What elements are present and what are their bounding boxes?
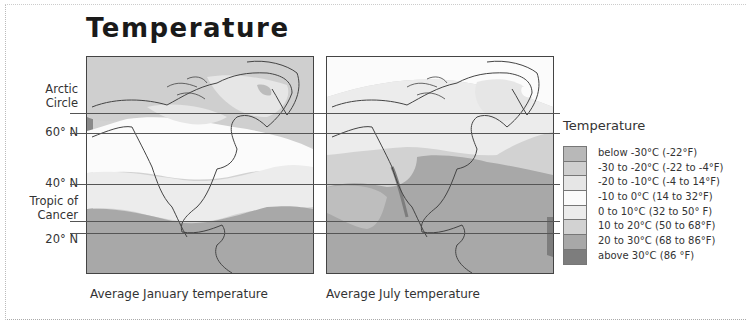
figure-title: Temperature [86,13,290,43]
legend-swatch [563,161,587,176]
latitude-line-tropic-of-cancer [70,221,560,222]
label-60n: 60° N [45,125,78,139]
legend-swatch [563,219,587,234]
legend-title: Temperature [563,118,645,133]
latitude-line-40n [70,184,560,185]
legend-swatch [563,205,587,220]
map-january [86,56,314,274]
latitude-line-60n [70,133,560,134]
label-tropic-of-cancer: Tropic of Cancer [30,194,78,222]
legend-swatch [563,175,587,190]
legend-swatch [563,146,587,161]
january-temperature-map [87,57,313,273]
latitude-line-arctic-circle [70,113,560,114]
label-arctic-circle: Arctic Circle [45,82,78,110]
legend-swatch [563,190,587,205]
caption-january: Average January temperature [90,287,268,301]
caption-july: Average July temperature [326,287,480,301]
map-july [326,56,554,274]
label-40n: 40° N [45,176,78,190]
label-20n: 20° N [45,232,78,246]
legend-swatch [563,249,587,265]
legend-swatch [563,234,587,249]
july-temperature-map [327,57,553,273]
latitude-line-20n [70,233,560,234]
